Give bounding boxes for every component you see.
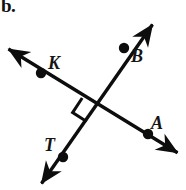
point-label-A: A [151,114,163,132]
point-label-T: T [44,136,55,154]
point-B-dot [119,43,129,53]
geometry-diagram-canvas [0,0,186,190]
part-label: b. [1,0,15,15]
geometry-figure: b. K A B T [0,0,186,190]
point-label-K: K [48,54,60,72]
point-K-dot [36,68,46,78]
right-angle-marker [73,98,87,121]
point-label-B: B [131,47,143,65]
line-KA [9,49,178,153]
point-T-dot [58,152,68,162]
